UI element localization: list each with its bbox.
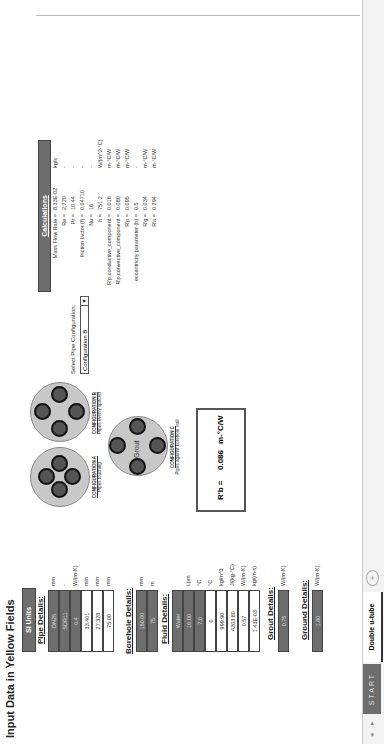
calc-unit: -: [88, 166, 94, 168]
result-unit: m-°C/W: [216, 415, 225, 444]
calc-label: R'p,convective_component =: [115, 214, 121, 285]
calc-value: 0.034: [142, 196, 148, 210]
field-value[interactable]: 0.75: [278, 590, 289, 652]
calculations-title: Calculations: [38, 140, 51, 292]
calc-unit: -: [133, 166, 139, 168]
calc-row: R'a =0.294m-°C/W: [151, 112, 160, 292]
field-value[interactable]: 0.4: [70, 590, 81, 652]
calc-row: friction factor (f) =0.04710-: [79, 112, 88, 292]
calc-unit: m-°C/W: [106, 149, 112, 168]
tab-start[interactable]: START: [363, 664, 381, 714]
field-unit: °C: [207, 580, 213, 586]
calc-value: 0.016: [106, 196, 112, 210]
field-unit: Lpm: [185, 575, 191, 586]
field-value[interactable]: 75: [147, 590, 158, 652]
calc-row: R'p,convective_component =0.080m-°C/W: [115, 112, 124, 292]
field-unit: W/(m-K): [240, 566, 246, 586]
calc-value: 0.080: [115, 196, 121, 210]
field-value[interactable]: 150.00: [136, 590, 147, 652]
rotated-sheet: Input Data in Yellow Fields SI Units Pip…: [0, 0, 384, 744]
sheet-tab-bar: ◂ ▸ START Double u-tube +: [362, 0, 384, 744]
page-title: Input Data in Yellow Fields: [4, 599, 16, 738]
calc-value: 0.5: [133, 202, 139, 210]
field-unit: °C: [196, 580, 202, 586]
calc-value: 0.294: [151, 196, 157, 210]
calc-value: 10.44: [70, 196, 76, 210]
field-unit: kg/(m-s): [251, 566, 257, 586]
select-config-label: Select Pipe Configuration:: [70, 305, 76, 374]
select-value: Configuration B: [82, 330, 88, 371]
calc-row: h =751.2W/(m^2-°C): [97, 112, 106, 292]
field-unit: mm: [105, 577, 111, 586]
grout-label: Grout: [133, 440, 140, 458]
calc-label: h =: [97, 214, 103, 222]
calc-row: eccentricity parameter (b) =0.5-: [133, 112, 142, 292]
configuration-b-desc: Pipes evenly spaced: [97, 392, 102, 433]
dropdown-arrow-icon[interactable]: ▼: [81, 297, 88, 306]
field-value[interactable]: Water: [172, 590, 183, 652]
calc-label: friction factor (f) =: [79, 214, 85, 257]
calc-value: 8.33E-02: [52, 188, 58, 210]
pipe-icon: [109, 437, 126, 454]
calc-row: R'p =0.095m-°C/W: [124, 112, 133, 292]
pipe-icon: [38, 468, 55, 485]
ground-details-title: Ground Details:: [300, 580, 309, 640]
field-value[interactable]: 1.80: [312, 590, 323, 652]
result-label: R'b =: [216, 481, 225, 500]
pipe-details-title: Pipe Details:: [36, 596, 45, 644]
pipe-icon: [64, 468, 81, 485]
field-value: 33.401: [81, 590, 92, 652]
configuration-a-desc: Pipes touching: [97, 462, 102, 492]
field-unit: mm: [50, 577, 56, 586]
field-unit: W/(m-K): [314, 566, 320, 586]
configuration-c-diagram: Grout: [108, 416, 168, 476]
tab-double-u-tube[interactable]: Double u-tube: [363, 592, 383, 662]
calc-value: 0.095: [124, 196, 130, 210]
fluid-details-title: Fluid Details:: [160, 594, 169, 644]
calc-label: R'p,conductive_component =: [106, 214, 112, 285]
field-value: 4203.80: [227, 590, 238, 652]
calc-row: Pr =10.44-: [70, 112, 79, 292]
calc-unit: m-°C/W: [151, 149, 157, 168]
calc-row: R'p,conductive_component =0.016m-°C/W: [106, 112, 115, 292]
field-unit: mm: [138, 577, 144, 586]
tab-nav-next-button[interactable]: ▸: [363, 718, 381, 728]
calc-label: Re =: [61, 214, 67, 226]
pipe-icon: [51, 455, 68, 472]
pipe-icon: [129, 458, 146, 475]
field-unit: W/(m-K): [72, 566, 78, 586]
result-box: R'b = 0.086 m-°C/W: [196, 408, 246, 512]
configuration-b-caption: CONFIGURATION B Pipes evenly spaced: [92, 378, 102, 448]
field-value[interactable]: SDR11: [59, 590, 70, 652]
pipe-icon: [51, 420, 68, 437]
pipe-configuration-select[interactable]: Configuration B ▼: [80, 296, 89, 374]
field-unit: mm: [94, 577, 100, 586]
pipe-icon: [149, 437, 166, 454]
grout-details-title: Grout Details:: [266, 587, 275, 640]
si-units-button[interactable]: SI Units: [22, 588, 36, 652]
calc-label: R'g =: [142, 214, 148, 227]
tab-nav-prev-button[interactable]: ◂: [363, 730, 381, 740]
field-value: 1.43E-03: [249, 590, 260, 652]
field-unit: mm: [83, 577, 89, 586]
field-value[interactable]: DN25: [48, 590, 59, 652]
field-unit: J/(kg-°C): [229, 564, 235, 586]
field-value[interactable]: 7.0: [194, 590, 205, 652]
field-value: 75.00: [103, 590, 114, 652]
calc-unit: m-°C/W: [124, 149, 130, 168]
calc-label: Pr =: [70, 214, 76, 224]
calc-unit: -: [79, 166, 85, 168]
field-value[interactable]: 10.00: [183, 590, 194, 652]
pipe-icon: [129, 418, 146, 435]
calc-unit: m-°C/W: [142, 149, 148, 168]
configuration-a-diagram: [30, 447, 90, 507]
vertical-scrollbar[interactable]: [36, 5, 360, 16]
calc-row: R'g =0.034m-°C/W: [142, 112, 151, 292]
pipe-icon: [51, 481, 68, 498]
field-unit: -: [61, 584, 67, 586]
calc-value: 751.2: [97, 196, 103, 210]
add-sheet-button[interactable]: +: [366, 570, 379, 586]
result-value: 0.086: [216, 450, 225, 470]
borehole-details-title: Borehole Details:: [124, 588, 133, 654]
configuration-c-caption: CONFIGURATION C Pipes against borehole w…: [170, 412, 180, 482]
